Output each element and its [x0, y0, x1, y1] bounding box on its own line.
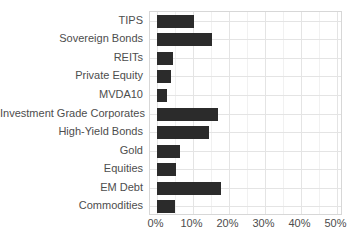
- bar: [157, 70, 171, 83]
- bar: [157, 89, 168, 102]
- bar: [157, 33, 213, 46]
- category-label: Commodities: [0, 199, 143, 212]
- bar: [157, 163, 177, 176]
- bar: [157, 200, 175, 213]
- x-tick-label: 0%: [148, 217, 164, 229]
- category-label: Sovereign Bonds: [0, 32, 143, 45]
- category-label: Private Equity: [0, 69, 143, 82]
- bar: [157, 182, 222, 195]
- row-gridline: [150, 76, 341, 77]
- row-gridline: [150, 169, 341, 170]
- category-label: Equities: [0, 162, 143, 175]
- category-label: TIPS: [0, 14, 143, 27]
- row-gridline: [150, 206, 341, 207]
- x-tick-label: 10%: [180, 217, 202, 229]
- category-label: MVDA10: [0, 88, 143, 101]
- row-gridline: [150, 95, 341, 96]
- plot-panel: [149, 11, 342, 215]
- x-tick-label: 20%: [216, 217, 238, 229]
- row-gridline: [150, 58, 341, 59]
- category-label: Investment Grade Corporates: [0, 107, 143, 120]
- category-label: REITs: [0, 51, 143, 64]
- x-tick-label: 40%: [288, 217, 310, 229]
- bar: [157, 108, 218, 121]
- category-label: EM Debt: [0, 181, 143, 194]
- bar: [157, 52, 173, 65]
- bar-chart: TIPSSovereign BondsREITsPrivate EquityMV…: [0, 0, 356, 247]
- bar: [157, 145, 180, 158]
- category-label: High-Yield Bonds: [0, 125, 143, 138]
- bar: [157, 15, 195, 28]
- x-tick-label: 30%: [252, 217, 274, 229]
- bar: [157, 126, 209, 139]
- category-label: Gold: [0, 144, 143, 157]
- x-tick-label: 50%: [324, 217, 346, 229]
